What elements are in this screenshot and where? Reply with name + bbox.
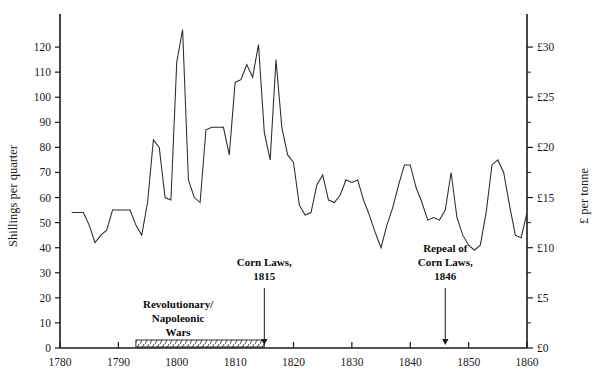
corn-laws-1815-line-1: 1815 <box>253 270 276 282</box>
x-tick-label-4: 1820 <box>282 356 305 368</box>
x-tick-label-5: 1830 <box>340 356 363 368</box>
x-tick-label-1: 1790 <box>107 356 130 368</box>
y-tick-label-10: 100 <box>34 91 52 103</box>
y-axis-left-title: Shillings per quarter <box>6 144 20 247</box>
war-label-line-1: Napoleonic <box>152 312 205 324</box>
y2-tick-label-5: £25 <box>537 91 555 103</box>
x-tick-label-7: 1850 <box>457 356 480 368</box>
y-tick-label-3: 30 <box>40 267 52 279</box>
war-period-bar <box>136 340 264 347</box>
y-tick-label-1: 10 <box>40 317 52 329</box>
y-tick-label-5: 50 <box>40 217 52 229</box>
y2-tick-label-3: £15 <box>537 192 555 204</box>
y-tick-label-12: 120 <box>34 41 52 53</box>
y-axis-left: 0102030405060708090100110120 <box>34 14 60 354</box>
chart-canvas: 0102030405060708090100110120 £0£5£10£15£… <box>0 0 604 392</box>
y2-tick-label-0: £0 <box>537 342 549 354</box>
corn-laws-1815-line-0: Corn Laws, <box>237 256 292 268</box>
y-tick-label-9: 90 <box>40 116 52 128</box>
repeal-of-corn-laws-1846-line-0: Repeal of <box>423 242 468 254</box>
data-series-group <box>72 30 527 251</box>
y-tick-label-4: 40 <box>40 242 52 254</box>
y2-tick-label-4: £20 <box>537 141 555 153</box>
y-axis-right-title: £ per tonne <box>577 167 591 224</box>
y-tick-label-6: 60 <box>40 192 52 204</box>
repeal-of-corn-laws-1846-line-1: Corn Laws, <box>418 256 473 268</box>
x-axis: 178017901800181018201830184018501860 <box>49 342 539 368</box>
repeal-of-corn-laws-1846-line-2: 1846 <box>434 270 457 282</box>
x-tick-label-8: 1860 <box>516 356 539 368</box>
y2-tick-label-6: £30 <box>537 41 555 53</box>
y-tick-label-2: 20 <box>40 292 52 304</box>
war-label-line-2: Wars <box>166 326 192 338</box>
x-tick-label-2: 1800 <box>165 356 188 368</box>
wheat-price-chart: 0102030405060708090100110120 £0£5£10£15£… <box>0 0 604 392</box>
y-tick-label-11: 110 <box>34 66 51 78</box>
y-axis-right: £0£5£10£15£20£25£30 <box>527 14 555 354</box>
annotations-group: Revolutionary/NapoleonicWarsCorn Laws,18… <box>136 242 473 347</box>
war-label-line-0: Revolutionary/ <box>143 298 214 310</box>
y-tick-label-8: 80 <box>40 141 52 153</box>
y2-tick-label-1: £5 <box>537 292 549 304</box>
repeal-of-corn-laws-1846-arrowhead <box>442 339 448 345</box>
series-path-0 <box>72 30 527 251</box>
y-tick-label-0: 0 <box>45 342 51 354</box>
x-tick-label-3: 1810 <box>224 356 247 368</box>
y-tick-label-7: 70 <box>40 166 52 178</box>
x-tick-label-6: 1840 <box>399 356 422 368</box>
y2-tick-label-2: £10 <box>537 242 555 254</box>
x-tick-label-0: 1780 <box>49 356 72 368</box>
